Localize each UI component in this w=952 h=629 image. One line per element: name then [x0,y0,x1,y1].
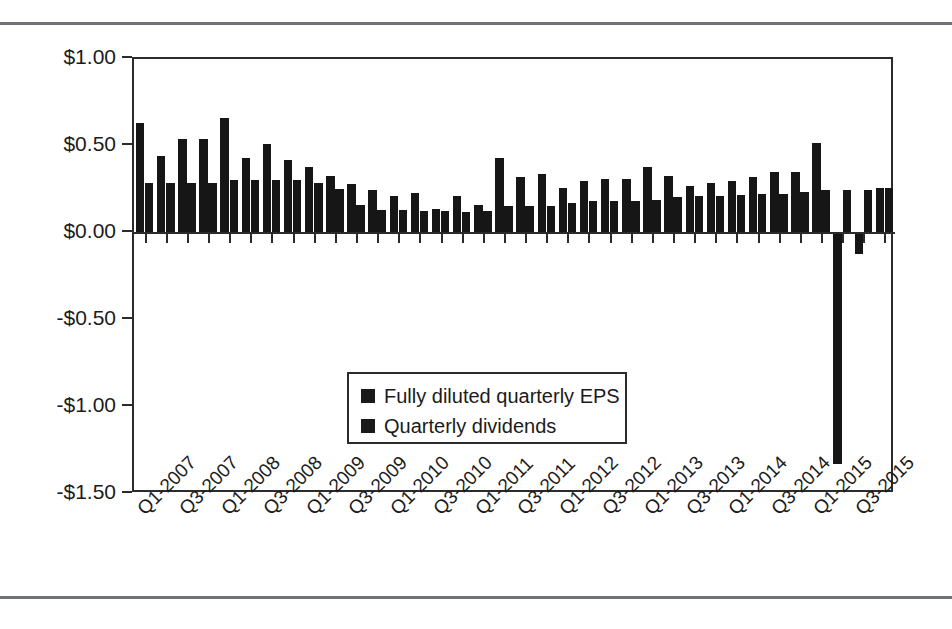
x-axis: Q1-2007Q3-2007Q1-2008Q3-2008Q1-2009Q3-20… [0,0,952,629]
figure: $1.00$0.50$0.00-$0.50-$1.00-$1.50 Fully … [0,0,952,629]
